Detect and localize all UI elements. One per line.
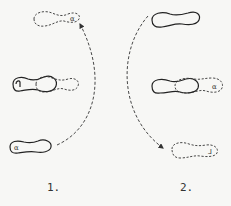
footprint-top-solid [152,12,200,27]
movement-arrow [127,16,163,148]
panel-1-label: 1. [47,181,60,194]
footprint-bottom-dashed: ⅃ [172,143,217,158]
footstep-diagram: α α α ⅃ [0,0,231,206]
footprint-middle-overlap [13,76,78,92]
footprint-top-dashed: α [34,12,79,27]
foot-mark: α [212,83,217,91]
foot-mark: α [70,15,75,23]
footprint-bottom-solid: α [10,140,51,153]
footprint-middle-overlap: α [152,78,223,93]
movement-arrow [57,24,95,145]
foot-mark: α [14,144,19,152]
panel-2: α ⅃ [127,12,222,158]
foot-mark: ⅃ [208,148,212,156]
panel-2-label: 2. [180,181,193,194]
panel-1: α α [10,12,95,154]
